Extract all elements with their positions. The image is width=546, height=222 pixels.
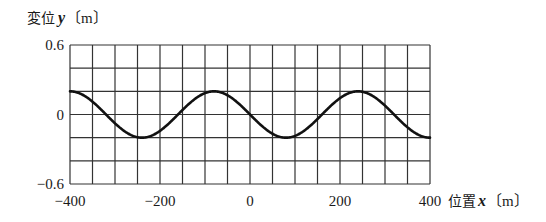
x-tick-label: −400 [55,193,86,209]
x-tick-label: 400 [419,193,442,209]
wave-chart: 変位y〔m〕 0.60−0.6 −400−2000200400 位置x〔m〕 [0,0,546,222]
x-axis-label-prefix: 位置 [448,193,476,209]
y-tick-label: −0.6 [37,176,65,192]
y-axis-label-prefix: 変位 [27,10,55,26]
y-tick-label: 0 [57,107,65,123]
y-axis-label: 変位y〔m〕 [27,9,108,27]
x-axis-label: 位置x〔m〕 [448,192,529,209]
x-axis-unit: 〔m〕 [487,193,529,209]
x-tick-label: 0 [246,193,254,209]
y-axis-unit: 〔m〕 [66,10,108,26]
y-tick-label: 0.6 [45,37,64,53]
y-tick-labels: 0.60−0.6 [37,37,65,192]
x-tick-labels: −400−2000200400 [55,193,442,209]
x-tick-label: 200 [329,193,352,209]
x-tick-label: −200 [145,193,176,209]
y-axis-variable: y [56,9,66,27]
x-axis-variable: x [477,192,486,209]
